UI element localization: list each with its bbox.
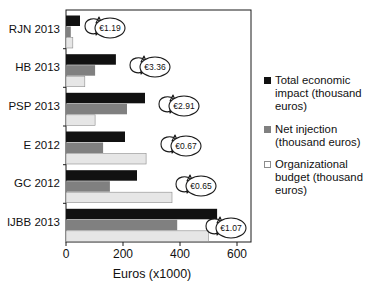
legend-item-organizational-budget[interactable]: Organizational budget (thousand euros)	[264, 158, 374, 198]
bar-total-economic-impact	[66, 170, 137, 181]
category-label: HB 2013	[15, 61, 60, 73]
bar-chart: RJN 2013 HB 2013 PSP 2013 E 2012 GC 2012…	[0, 0, 376, 288]
x-tick-label: 200	[113, 247, 133, 261]
bar-total-economic-impact	[66, 209, 217, 220]
y-axis-labels: RJN 2013 HB 2013 PSP 2013 E 2012 GC 2012…	[7, 23, 60, 228]
bar-net-injection	[66, 65, 95, 76]
x-axis-tick-labels: 0 200 400 600	[63, 247, 248, 261]
bar-total-economic-impact	[66, 54, 116, 64]
category-label: IJBB 2013	[7, 216, 60, 228]
bar-organizational-budget	[66, 115, 95, 126]
bar-net-injection	[66, 181, 110, 192]
callout-value: €2.91	[173, 101, 195, 111]
x-tick-label: 600	[227, 247, 247, 261]
category-label: RJN 2013	[9, 23, 60, 35]
bar-organizational-budget	[66, 38, 73, 49]
legend-label: Total economic impact (thousand euros)	[275, 74, 374, 114]
bar-total-economic-impact	[66, 93, 145, 104]
callout-value: €1.07	[220, 223, 242, 233]
legend-swatch-icon	[264, 126, 271, 133]
legend-swatch-icon	[264, 161, 271, 168]
bar-total-economic-impact	[66, 132, 125, 143]
x-axis-ticks	[66, 242, 237, 246]
legend-item-total-economic-impact[interactable]: Total economic impact (thousand euros)	[264, 74, 374, 114]
category-label: E 2012	[24, 139, 60, 151]
bar-net-injection	[66, 143, 103, 154]
x-axis-title: Euros (x1000)	[113, 267, 192, 281]
callout-value: €3.36	[144, 62, 166, 72]
legend: Total economic impact (thousand euros) N…	[264, 74, 374, 198]
plot-frame	[66, 10, 251, 242]
callout-value: €1.19	[99, 23, 121, 33]
category-label: GC 2012	[14, 177, 60, 189]
x-tick-label: 400	[170, 247, 190, 261]
bar-total-economic-impact	[66, 16, 80, 27]
bar-organizational-budget	[66, 76, 85, 87]
callout-value: €0.67	[175, 141, 197, 151]
legend-label: Organizational budget (thousand euros)	[275, 158, 374, 198]
legend-label: Net injection (thousand euros)	[275, 123, 374, 149]
bar-organizational-budget	[66, 154, 146, 165]
bar-net-injection	[66, 220, 177, 231]
x-tick-label: 0	[63, 247, 70, 261]
bar-organizational-budget	[66, 192, 172, 203]
callout-value: €0.65	[190, 181, 212, 191]
bar-net-injection	[66, 104, 127, 115]
legend-item-net-injection[interactable]: Net injection (thousand euros)	[264, 123, 374, 149]
bar-organizational-budget	[66, 231, 209, 242]
category-label: PSP 2013	[8, 100, 60, 112]
legend-swatch-icon	[264, 77, 271, 84]
bar-net-injection	[66, 27, 71, 38]
